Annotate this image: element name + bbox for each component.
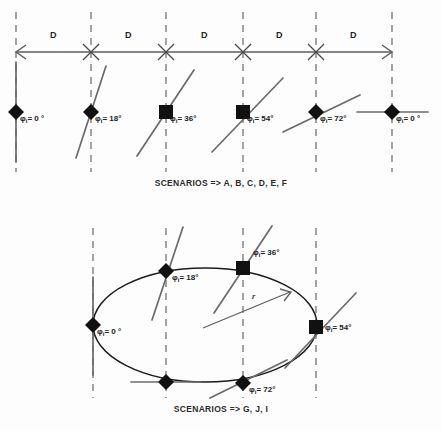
angle-value: = 18° (102, 114, 121, 123)
angle-label-j: φi= 54° (325, 323, 351, 333)
angle-value: = 0 ° (403, 114, 420, 123)
angle-value: = 18° (179, 273, 198, 282)
angle-label-e: φi= 72° (320, 114, 346, 124)
spacing-label-d-1: D (50, 30, 57, 40)
angle-label-b: φi= 18° (95, 114, 121, 124)
angle-label-h: φi= 18° (172, 273, 198, 283)
spacing-label-d-5: D (350, 30, 357, 40)
angle-value: = 0 ° (27, 114, 44, 123)
square-marker (236, 261, 250, 275)
angle-value: = 54° (332, 323, 351, 332)
spacing-label-d-4: D (276, 30, 283, 40)
angle-value: = 0 ° (104, 327, 121, 336)
angle-value: = 36° (260, 248, 279, 257)
angle-value: = 36° (177, 114, 196, 123)
top-panel-caption: SCENARIOS => A, B, C, D, E, F (0, 178, 442, 188)
angle-label-f: φi= 0 ° (396, 114, 420, 124)
scenarios-diagram (0, 0, 442, 431)
radius-label: r (252, 292, 255, 301)
angle-label-d: φi= 54° (247, 114, 273, 124)
angle-value: = 54° (254, 114, 273, 123)
angle-label-i: φi= 36° (253, 248, 279, 258)
angle-label-k: φi= 72° (249, 385, 275, 395)
angle-label-g: φi= 0 ° (97, 327, 121, 337)
figure-background (0, 0, 442, 431)
angle-label-c: φi= 36° (170, 114, 196, 124)
angle-value: = 72° (327, 114, 346, 123)
bottom-panel-caption: SCENARIOS => G, J, I (0, 404, 442, 414)
angle-label-a: φi= 0 ° (20, 114, 44, 124)
square-marker (309, 320, 323, 334)
spacing-label-d-2: D (125, 30, 132, 40)
spacing-label-d-3: D (201, 30, 208, 40)
angle-value: = 72° (256, 385, 275, 394)
